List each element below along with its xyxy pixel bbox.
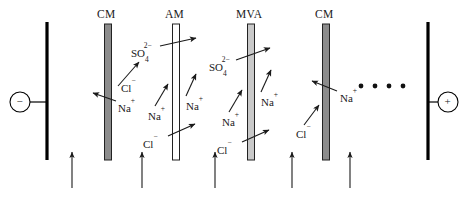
ion-label-na-2: Na+ [148,111,165,122]
figure-canvas: −+CMAMMVACMCl−Na+SO42−Na+Na+Cl−SO42−Na+N… [0,0,462,202]
repeat-dot-3 [387,84,392,89]
membrane-label-mva1: MVA [236,9,262,21]
flow-arrows-group [72,152,350,188]
schematic-svg [0,0,462,202]
anode-sign: + [445,96,451,107]
ion-arrow-a9 [261,70,271,92]
membrane-label-cm2: CM [315,9,334,21]
ion-label-so4-2: SO42− [209,62,235,73]
ion-arrow-a3 [155,84,168,106]
ion-label-na-1: Na+ [118,103,135,114]
cathode-sign: − [17,96,23,107]
repeat-dot-2 [373,84,378,89]
ion-label-na-6: Na+ [340,93,357,104]
repeat-dot-4 [401,84,406,89]
ion-arrow-a10 [242,130,269,142]
membrane-am1 [173,24,180,160]
membrane-label-cm1: CM [97,9,116,21]
repeat-ellipsis-group [359,84,406,89]
ion-label-cl-3: Cl− [217,145,232,156]
membrane-cm1 [105,24,112,160]
ion-label-cl-4: Cl− [296,129,311,140]
ion-arrow-a7 [229,90,242,112]
ion-arrow-a5 [186,74,196,96]
electrodes-group [10,22,458,160]
membrane-label-am1: AM [165,9,184,21]
ion-label-so4-1: SO42− [131,48,157,59]
ion-label-cl-1: Cl− [121,83,136,94]
ion-label-na-4: Na+ [222,117,239,128]
ion-label-na-3: Na+ [186,101,203,112]
repeat-dot-1 [359,84,364,89]
ion-label-na-5: Na+ [261,97,278,108]
ion-label-cl-2: Cl− [143,139,158,150]
cathode-bar [45,22,48,160]
anode-bar [426,22,429,160]
membrane-cm2 [323,24,330,160]
